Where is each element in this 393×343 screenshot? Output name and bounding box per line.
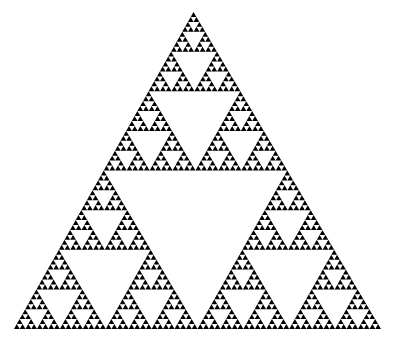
fractal-triangles [14, 12, 381, 329]
sierpinski-triangle [0, 0, 393, 343]
